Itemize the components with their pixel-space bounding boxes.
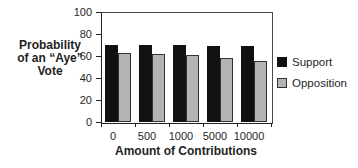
x-axis-title: Amount of Contributions bbox=[95, 144, 277, 158]
bar-opposition bbox=[254, 61, 267, 122]
y-tick-mark bbox=[96, 34, 101, 35]
bar-opposition bbox=[186, 55, 199, 122]
x-tick-mark bbox=[271, 123, 272, 127]
bar-opposition bbox=[118, 53, 131, 122]
opposition-swatch-icon bbox=[277, 78, 287, 88]
bar-support bbox=[173, 45, 186, 122]
bar-support bbox=[207, 46, 220, 122]
y-tick-mark bbox=[96, 12, 101, 13]
y-tick-label: 100 bbox=[64, 7, 92, 18]
bar-opposition bbox=[220, 58, 233, 122]
bar-chart: Probability of an “Aye” Vote 02040608010… bbox=[0, 0, 358, 168]
y-tick-mark bbox=[96, 100, 101, 101]
x-tick-mark bbox=[135, 123, 136, 127]
bar-opposition bbox=[152, 54, 165, 122]
x-tick-mark bbox=[101, 123, 102, 127]
x-tick-mark bbox=[237, 123, 238, 127]
legend-label-support: Support bbox=[292, 56, 332, 68]
y-tick-mark bbox=[96, 78, 101, 79]
y-tick-label: 0 bbox=[64, 117, 92, 128]
legend: Support Opposition bbox=[277, 53, 347, 95]
x-tick-mark bbox=[203, 123, 204, 127]
legend-item-opposition: Opposition bbox=[277, 74, 347, 92]
y-tick-label: 20 bbox=[64, 95, 92, 106]
legend-item-support: Support bbox=[277, 53, 347, 71]
legend-label-opposition: Opposition bbox=[292, 77, 347, 89]
bar-support bbox=[241, 46, 254, 122]
y-tick-mark bbox=[96, 56, 101, 57]
y-tick-label: 80 bbox=[64, 29, 92, 40]
bar-support bbox=[139, 45, 152, 122]
y-tick-label: 40 bbox=[64, 73, 92, 84]
support-swatch-icon bbox=[277, 57, 287, 67]
y-tick-label: 60 bbox=[64, 51, 92, 62]
x-tick-label: 10000 bbox=[227, 131, 271, 142]
bar-support bbox=[105, 45, 118, 122]
x-tick-mark bbox=[169, 123, 170, 127]
